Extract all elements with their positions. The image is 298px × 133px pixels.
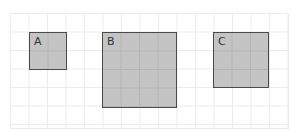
square-c: C — [213, 32, 269, 88]
square-a-label: A — [34, 35, 42, 48]
square-c-label: C — [218, 35, 226, 48]
square-b-label: B — [107, 35, 115, 48]
square-b: B — [102, 32, 177, 108]
square-a: A — [29, 32, 67, 70]
